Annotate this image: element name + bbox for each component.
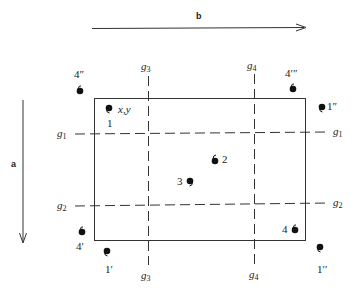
g4-top-label: g4 bbox=[247, 60, 257, 73]
grid-line-g2 bbox=[75, 203, 330, 206]
point-2-marker bbox=[212, 155, 219, 164]
point-4tripleprime-label: 4′″ bbox=[285, 68, 298, 79]
g2-right-label: g2 bbox=[333, 197, 343, 210]
g3-top-label: g3 bbox=[141, 61, 151, 74]
diagram-canvas bbox=[0, 0, 361, 291]
point-3-marker bbox=[187, 178, 194, 186]
point-4tripleprime-marker bbox=[290, 84, 297, 92]
arrow-a bbox=[20, 100, 27, 243]
point-2-label: 2 bbox=[222, 154, 228, 165]
point-1doubleprime-top-marker bbox=[319, 104, 326, 112]
point-3-label: 3 bbox=[177, 176, 183, 187]
g3-bottom-label: g3 bbox=[141, 270, 151, 283]
point-1-marker bbox=[106, 105, 113, 113]
point-4-label: 4 bbox=[282, 224, 288, 235]
point-1doubleprime-bottom-marker bbox=[317, 244, 324, 252]
point-4doubleprime-label: 4″ bbox=[74, 69, 84, 80]
plate-rectangle bbox=[95, 99, 306, 241]
arrow-a-label: a bbox=[11, 160, 16, 169]
point-1-label: 1 bbox=[107, 118, 113, 129]
grid-line-g1 bbox=[75, 132, 330, 134]
point-1prime-label: 1′ bbox=[105, 264, 113, 275]
arrow-b bbox=[92, 24, 306, 31]
point-4-marker bbox=[292, 225, 299, 234]
point-4prime-marker bbox=[79, 227, 86, 236]
g1-right-label: g1 bbox=[333, 126, 343, 139]
point-4prime-label: 4′ bbox=[76, 241, 84, 252]
g1-left-label: g1 bbox=[57, 128, 67, 141]
point-1doubleprime-top-label: 1″ bbox=[327, 101, 337, 112]
point-1-coord-label: x,y bbox=[118, 104, 131, 115]
arrow-b-label: b bbox=[196, 12, 202, 21]
g2-left-label: g2 bbox=[57, 200, 67, 213]
g4-bottom-label: g4 bbox=[249, 269, 259, 282]
point-markers bbox=[77, 84, 326, 256]
point-1doubleprime-bottom-label: 1′′ bbox=[317, 264, 327, 275]
point-1prime-marker bbox=[104, 248, 111, 256]
point-4doubleprime-marker bbox=[77, 86, 84, 94]
